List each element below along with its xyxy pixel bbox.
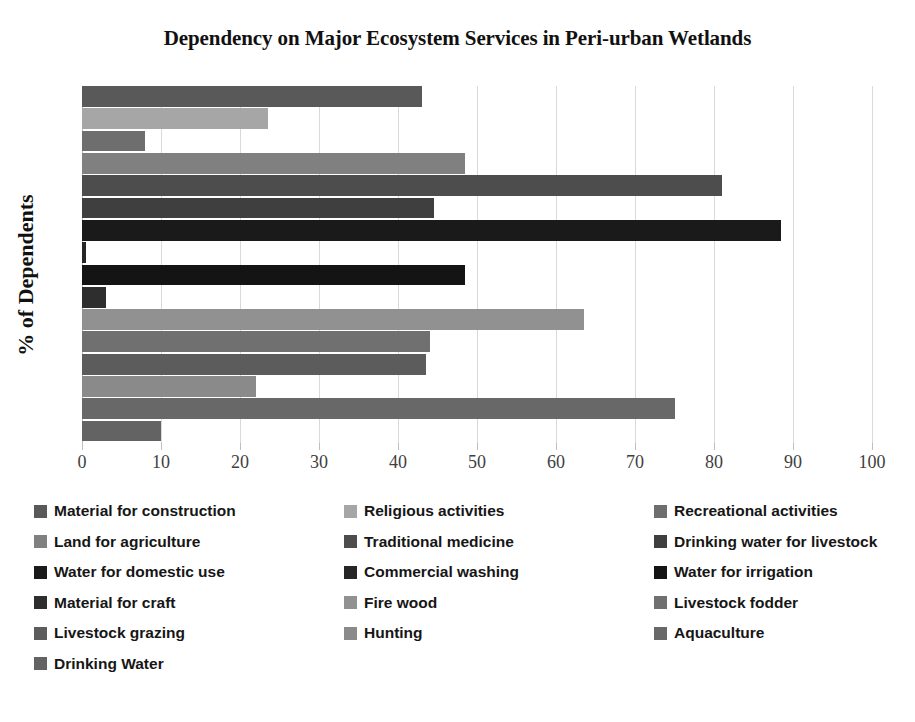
bar[interactable] — [82, 242, 86, 263]
bar[interactable] — [82, 376, 256, 397]
legend-swatch-icon — [654, 566, 667, 579]
x-axis-tickmark — [161, 443, 162, 450]
legend-item[interactable]: Livestock fodder — [654, 592, 798, 614]
bar[interactable] — [82, 220, 781, 241]
legend-label: Land for agriculture — [54, 533, 200, 551]
legend-label: Material for construction — [54, 502, 236, 520]
bar[interactable] — [82, 175, 722, 196]
bar[interactable] — [82, 198, 434, 219]
legend-label: Commercial washing — [364, 563, 519, 581]
legend-item[interactable]: Religious activities — [344, 500, 504, 522]
bar[interactable] — [82, 86, 422, 107]
x-axis-tickmark — [240, 443, 241, 450]
bar-row — [82, 309, 872, 330]
legend-label: Aquaculture — [674, 624, 764, 642]
x-axis-tickmark — [872, 443, 873, 450]
bar-row — [82, 265, 872, 286]
bar[interactable] — [82, 309, 584, 330]
x-axis: 0102030405060708090100 — [82, 443, 872, 477]
bar-row — [82, 398, 872, 419]
legend-item[interactable]: Water for irrigation — [654, 561, 813, 583]
bar-row — [82, 354, 872, 375]
bar-row — [82, 376, 872, 397]
x-axis-tickmark — [319, 443, 320, 450]
bar-row — [82, 198, 872, 219]
legend-item[interactable]: Livestock grazing — [34, 622, 185, 644]
x-axis-ticklabel: 40 — [373, 452, 423, 473]
legend-swatch-icon — [344, 566, 357, 579]
legend-swatch-icon — [344, 627, 357, 640]
bar-row — [82, 421, 872, 442]
legend-label: Drinking Water — [54, 655, 164, 673]
legend-item[interactable]: Hunting — [344, 622, 423, 644]
legend-label: Traditional medicine — [364, 533, 514, 551]
bar[interactable] — [82, 331, 430, 352]
x-axis-ticklabel: 90 — [768, 452, 818, 473]
legend-swatch-icon — [34, 505, 47, 518]
bar-row — [82, 220, 872, 241]
bar[interactable] — [82, 108, 268, 129]
x-axis-tickmark — [714, 443, 715, 450]
legend-swatch-icon — [654, 596, 667, 609]
y-axis-title: % of Dependents — [6, 150, 46, 400]
bar[interactable] — [82, 265, 465, 286]
chart-title: Dependency on Major Ecosystem Services i… — [0, 26, 915, 51]
bar[interactable] — [82, 287, 106, 308]
legend-label: Livestock fodder — [674, 594, 798, 612]
bar[interactable] — [82, 398, 675, 419]
legend-item[interactable]: Drinking water for livestock — [654, 531, 877, 553]
x-axis-tickmark — [82, 443, 83, 450]
legend-item[interactable]: Commercial washing — [344, 561, 519, 583]
bar-row — [82, 108, 872, 129]
legend-label: Water for domestic use — [54, 563, 225, 581]
legend-item[interactable]: Aquaculture — [654, 622, 764, 644]
x-axis-tickmark — [398, 443, 399, 450]
legend-item[interactable]: Material for craft — [34, 592, 175, 614]
bar-row — [82, 153, 872, 174]
legend-label: Livestock grazing — [54, 624, 185, 642]
chart-figure: Dependency on Major Ecosystem Services i… — [0, 0, 915, 722]
legend-swatch-icon — [344, 596, 357, 609]
bar[interactable] — [82, 354, 426, 375]
legend-label: Fire wood — [364, 594, 437, 612]
x-axis-ticklabel: 50 — [452, 452, 502, 473]
legend-swatch-icon — [344, 535, 357, 548]
legend-item[interactable]: Water for domestic use — [34, 561, 225, 583]
legend-item[interactable]: Material for construction — [34, 500, 236, 522]
bar[interactable] — [82, 131, 145, 152]
legend-swatch-icon — [34, 627, 47, 640]
legend-item[interactable]: Drinking Water — [34, 653, 164, 675]
legend-item[interactable]: Land for agriculture — [34, 531, 200, 553]
legend-label: Hunting — [364, 624, 423, 642]
bars-group — [82, 86, 872, 443]
bar-row — [82, 242, 872, 263]
legend-item[interactable]: Fire wood — [344, 592, 437, 614]
x-axis-tickmark — [793, 443, 794, 450]
gridline — [872, 86, 873, 443]
legend-swatch-icon — [34, 596, 47, 609]
legend-item[interactable]: Recreational activities — [654, 500, 838, 522]
x-axis-tickmark — [556, 443, 557, 450]
bar-row — [82, 86, 872, 107]
x-axis-ticklabel: 100 — [847, 452, 897, 473]
y-axis-title-text: % of Dependents — [13, 194, 39, 355]
bar[interactable] — [82, 421, 161, 442]
legend-swatch-icon — [654, 505, 667, 518]
x-axis-tickmark — [635, 443, 636, 450]
x-axis-ticklabel: 60 — [531, 452, 581, 473]
bar-row — [82, 287, 872, 308]
bar-row — [82, 175, 872, 196]
legend-swatch-icon — [34, 566, 47, 579]
legend-swatch-icon — [34, 535, 47, 548]
x-axis-ticklabel: 10 — [136, 452, 186, 473]
legend-label: Drinking water for livestock — [674, 533, 877, 551]
x-axis-ticklabel: 30 — [294, 452, 344, 473]
legend-label: Religious activities — [364, 502, 504, 520]
legend-swatch-icon — [344, 505, 357, 518]
legend-item[interactable]: Traditional medicine — [344, 531, 514, 553]
bar[interactable] — [82, 153, 465, 174]
legend-label: Material for craft — [54, 594, 175, 612]
legend-label: Recreational activities — [674, 502, 838, 520]
chart-legend: Material for constructionReligious activ… — [34, 500, 915, 675]
legend-swatch-icon — [34, 657, 47, 670]
